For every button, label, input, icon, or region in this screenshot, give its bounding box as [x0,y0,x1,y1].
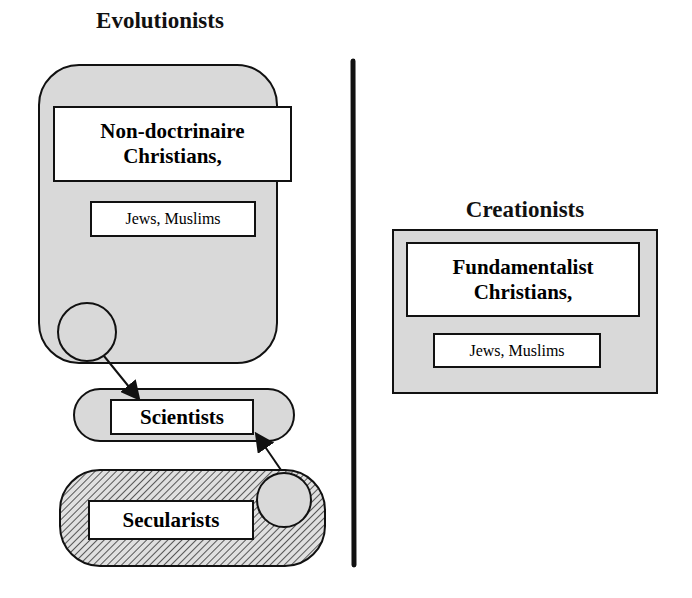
evolutionists-jews-muslims-box: Jews, Muslims [90,201,256,237]
scientists-box: Scientists [110,399,254,435]
fundamentalist-line2: Christians, [452,280,593,305]
fundamentalist-christians-box: Fundamentalist Christians, [406,242,640,317]
fundamentalist-line1: Fundamentalist [452,255,593,280]
evolutionists-title: Evolutionists [40,8,280,34]
secularists-box: Secularists [88,500,254,540]
creationists-title: Creationists [393,197,657,223]
creationists-jews-muslims-box: Jews, Muslims [433,333,601,368]
non-doctrinaire-christians-box: Non-doctrinaire Christians, [53,106,292,182]
non-doctrinaire-line1: Non-doctrinaire [100,119,244,144]
secularists-circle [257,473,311,527]
non-doctrinaire-line2: Christians, [100,144,244,169]
divider-line [353,61,354,565]
evolutionists-circle [58,303,116,361]
